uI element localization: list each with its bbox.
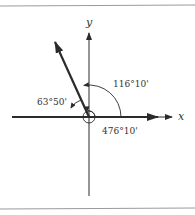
angle-label-116: 116°10' [113, 79, 149, 89]
x-axis-label: x [178, 110, 185, 123]
y-axis-label: y [85, 16, 93, 29]
angle-label-476: 476°10' [102, 126, 138, 136]
bottom-rule [0, 208, 195, 209]
top-rule [0, 5, 195, 6]
angle-arc-63 [71, 100, 81, 108]
angle-arc-116 [84, 85, 121, 117]
angle-diagram: y x 116°10' 63°50' 476°10' [0, 0, 195, 215]
angle-label-63: 63°50' [37, 97, 67, 107]
